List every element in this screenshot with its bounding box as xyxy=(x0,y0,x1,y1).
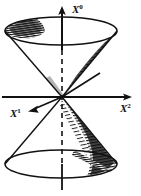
light-cone-diagram: X0 X1 X2 xyxy=(0,0,141,196)
light-cone-figure: X0 X1 X2 xyxy=(0,0,141,196)
